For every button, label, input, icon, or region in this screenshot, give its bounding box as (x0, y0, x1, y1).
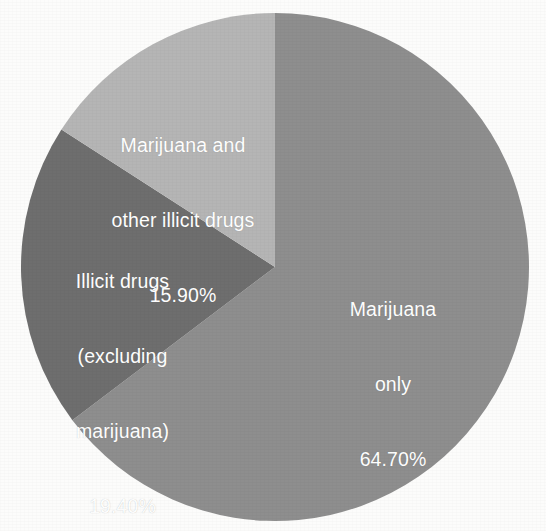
pie-label-percent: 19.40% (35, 494, 210, 519)
pie-label-illicit-drugs-excluding-marijuana: Illicit drugs (excluding marijuana) 19.4… (35, 219, 210, 531)
pie-label-line: (excluding (35, 344, 210, 369)
pie-label-line: marijuana) (35, 419, 210, 444)
pie-label-line: Marijuana and (77, 133, 289, 158)
pie-label-marijuana-only: Marijuana only 64.70% (313, 247, 473, 522)
pie-chart: Marijuana and other illicit drugs 15.90%… (0, 0, 546, 531)
pie-label-line: only (313, 372, 473, 397)
pie-label-line: Illicit drugs (35, 269, 210, 294)
pie-label-percent: 64.70% (313, 447, 473, 472)
pie-label-line: Marijuana (313, 297, 473, 322)
